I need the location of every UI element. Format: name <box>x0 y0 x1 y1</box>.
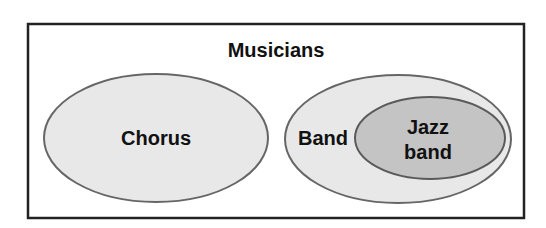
jazz-band-set <box>355 97 505 179</box>
band-label: Band <box>298 127 348 149</box>
chorus-label: Chorus <box>121 127 191 149</box>
universe-title: Musicians <box>228 39 325 61</box>
jazz-band-label-line2: band <box>404 141 452 163</box>
venn-diagram: Musicians Chorus Band Jazz band <box>0 0 546 228</box>
jazz-band-label-line1: Jazz <box>407 116 449 138</box>
